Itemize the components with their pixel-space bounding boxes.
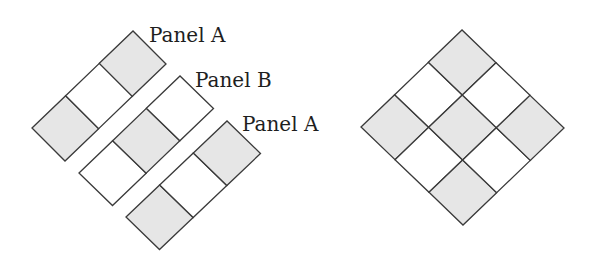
label-panel-a-top: Panel A — [149, 23, 226, 47]
label-panel-b: Panel B — [195, 68, 272, 92]
label-panel-a-bottom: Panel A — [242, 112, 319, 136]
separate-panels — [32, 31, 261, 249]
panel-assembly-diagram: Panel A Panel B Panel A — [0, 0, 605, 265]
assembled-grid — [361, 30, 564, 225]
